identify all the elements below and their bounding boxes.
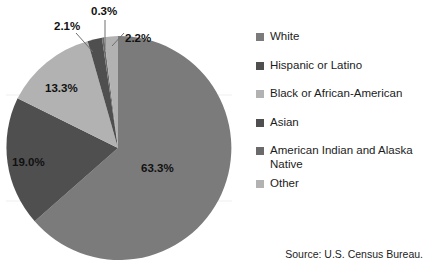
legend-label-black-or-african-american: Black or African-American: [270, 87, 402, 101]
slice-value-other: 2.2%: [125, 32, 151, 44]
legend-swatch-black-or-african-american: [256, 90, 264, 98]
legend-item-hispanic-or-latino[interactable]: Hispanic or Latino: [256, 59, 431, 73]
legend-item-asian[interactable]: Asian: [256, 116, 431, 130]
chart-legend: White Hispanic or Latino Black or Africa…: [256, 30, 431, 191]
slice-value-black: 13.3%: [45, 82, 78, 94]
legend-swatch-other: [256, 180, 264, 188]
legend-swatch-hispanic-or-latino: [256, 62, 264, 70]
legend-swatch-white: [256, 33, 264, 41]
pie-slices: [6, 36, 231, 260]
slice-value-white: 63.3%: [141, 162, 174, 174]
slice-value-asian: 2.1%: [54, 20, 80, 32]
legend-swatch-asian: [256, 119, 264, 127]
source-note: Source: U.S. Census Bureau.: [285, 248, 423, 260]
pie-chart-figure: 63.3% 19.0% 13.3% 2.1% 0.3% 2.2% White H…: [0, 0, 431, 268]
legend-label-asian: Asian: [270, 116, 299, 130]
legend-label-white: White: [270, 30, 299, 44]
legend-item-white[interactable]: White: [256, 30, 431, 44]
legend-item-other[interactable]: Other: [256, 177, 431, 191]
legend-label-american-indian-and-alaska-native: American Indian and Alaska Native: [270, 144, 413, 171]
slice-value-hispanic: 19.0%: [12, 156, 45, 168]
legend-item-black-or-african-american[interactable]: Black or African-American: [256, 87, 431, 101]
legend-swatch-american-indian-and-alaska-native: [256, 147, 264, 155]
legend-label-hispanic-or-latino: Hispanic or Latino: [270, 59, 362, 73]
legend-item-american-indian-and-alaska-native[interactable]: American Indian and Alaska Native: [256, 144, 431, 171]
slice-value-american-indian: 0.3%: [91, 5, 117, 17]
legend-label-other: Other: [270, 177, 299, 191]
